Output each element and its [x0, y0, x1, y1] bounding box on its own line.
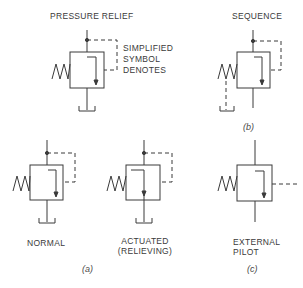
- normal-label: NORMAL: [27, 238, 65, 248]
- sequence-valve-symbol: [218, 30, 281, 111]
- actuated-label-line2: (RELIEVING): [110, 246, 180, 256]
- pressure-relief-symbol: [52, 30, 117, 111]
- external-label-line2: PILOT: [233, 247, 259, 257]
- simplified-note-line3: DENOTES: [123, 65, 166, 75]
- simplified-note-line2: SYMBOL: [123, 54, 160, 64]
- actuated-label-line1: ACTUATED: [110, 236, 180, 246]
- caption-c: (c): [247, 264, 258, 274]
- caption-b: (b): [243, 122, 254, 132]
- caption-a: (a): [82, 264, 93, 274]
- pressure-relief-title: PRESSURE RELIEF: [50, 11, 133, 21]
- relief-normal-symbol: [13, 140, 75, 223]
- external-label-line1: EXTERNAL: [233, 237, 280, 247]
- sequence-title: SEQUENCE: [232, 11, 282, 21]
- relief-actuated-symbol: [107, 140, 172, 223]
- external-pilot-symbol: [218, 140, 297, 222]
- simplified-note-line1: SIMPLIFIED: [123, 43, 173, 53]
